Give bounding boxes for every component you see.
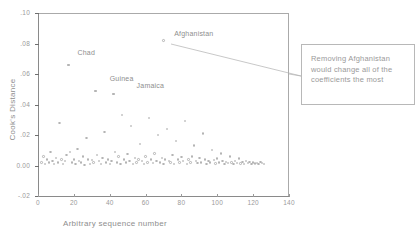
x-axis-title: Arbitrary sequence number — [63, 219, 167, 228]
annotation-callout-box: Removing Afghanistan would change all of… — [301, 44, 415, 105]
annotation-callout-text: Removing Afghanistan would change all of… — [311, 54, 411, 86]
cooks-distance-figure: -.020.00.02.04.06.08.10 0204060801001201… — [0, 0, 416, 239]
y-axis-title: Cook's Distance — [8, 55, 17, 165]
leader-lines — [0, 0, 416, 239]
afghanistan-leader-line — [171, 44, 301, 76]
